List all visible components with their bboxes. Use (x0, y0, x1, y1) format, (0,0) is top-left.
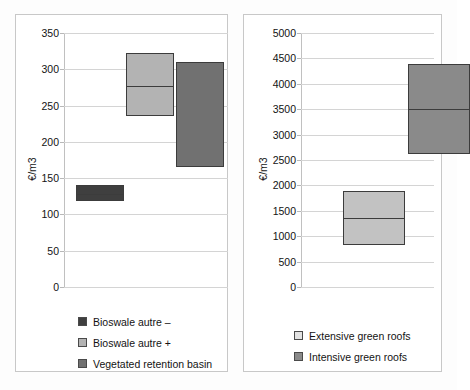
y-tick-label: 200 (41, 137, 59, 148)
y-tick-label: 3500 (273, 104, 296, 115)
legend-right: Extensive green roofsIntensive green roo… (244, 325, 441, 367)
gridline (301, 262, 434, 263)
legend-left: Bioswale autre –Bioswale autre +Vegetate… (16, 311, 227, 374)
plot-area-right: 0500100015002000250030003500400045005000 (301, 33, 434, 287)
y-tick-mark (297, 135, 301, 136)
legend-label: Vegetated retention basin (93, 358, 212, 370)
legend-label: Extensive green roofs (309, 330, 411, 342)
y-tick-label: 5000 (273, 28, 296, 39)
y-tick-label: 350 (41, 28, 59, 39)
legend-swatch-icon (78, 338, 87, 347)
y-tick-mark (297, 262, 301, 263)
y-tick-mark (297, 109, 301, 110)
y-tick-mark (60, 69, 64, 70)
data-box (343, 191, 405, 245)
y-tick-mark (297, 211, 301, 212)
gridline (301, 58, 434, 59)
gridline (64, 214, 228, 215)
y-tick-label: 2000 (273, 180, 296, 191)
legend-item[interactable]: Bioswale autre – (16, 311, 227, 332)
y-tick-mark (60, 142, 64, 143)
gridline (64, 33, 228, 34)
y-tick-label: 0 (53, 282, 59, 293)
y-tick-mark (60, 287, 64, 288)
legend-label: Bioswale autre + (93, 337, 171, 349)
y-tick-mark (297, 236, 301, 237)
y-tick-label: 3000 (273, 129, 296, 140)
y-tick-label: 150 (41, 173, 59, 184)
median-line (344, 218, 404, 219)
plot-area-left: 050100150200250300350 (64, 33, 228, 287)
y-axis-line-left (64, 33, 65, 287)
gridline (301, 160, 434, 161)
gridline (301, 33, 434, 34)
y-tick-mark (297, 185, 301, 186)
legend-swatch-icon (294, 352, 303, 361)
legend-label: Bioswale autre – (93, 316, 171, 328)
legend-swatch-icon (78, 359, 87, 368)
y-tick-mark (60, 251, 64, 252)
chart-panel-right: €/m3 05001000150020002500300035004000450… (243, 14, 442, 372)
y-tick-mark (60, 33, 64, 34)
y-tick-label: 250 (41, 100, 59, 111)
y-tick-label: 300 (41, 64, 59, 75)
y-tick-label: 100 (41, 209, 59, 220)
y-tick-label: 0 (290, 282, 296, 293)
median-line (77, 194, 123, 195)
legend-swatch-icon (78, 317, 87, 326)
y-tick-label: 50 (47, 245, 59, 256)
y-tick-mark (60, 178, 64, 179)
legend-item[interactable]: Bioswale autre + (16, 332, 227, 353)
y-tick-mark (297, 33, 301, 34)
legend-item[interactable]: Intensive green roofs (244, 346, 441, 367)
y-tick-mark (297, 84, 301, 85)
gridline (64, 178, 228, 179)
data-box (408, 64, 470, 154)
legend-item[interactable]: Extensive green roofs (244, 325, 441, 346)
y-tick-mark (60, 214, 64, 215)
median-line (127, 86, 173, 87)
y-tick-label: 1500 (273, 206, 296, 217)
y-tick-label: 4000 (273, 79, 296, 90)
y-tick-mark (297, 160, 301, 161)
legend-swatch-icon (294, 331, 303, 340)
legend-label: Intensive green roofs (309, 351, 407, 363)
y-tick-label: 2500 (273, 155, 296, 166)
data-box (126, 53, 174, 115)
y-axis-title-left: €/m3 (26, 144, 38, 194)
y-tick-mark (60, 106, 64, 107)
chart-panel-left: €/m3 050100150200250300350 Bioswale autr… (15, 14, 228, 372)
gridline (301, 287, 434, 288)
gridline (301, 185, 434, 186)
y-tick-mark (297, 58, 301, 59)
y-axis-title-right: €/m3 (257, 144, 269, 194)
legend-item[interactable]: Vegetated retention basin (16, 353, 227, 374)
gridline (64, 251, 228, 252)
data-box (176, 62, 224, 167)
gridline (64, 287, 228, 288)
data-box (76, 185, 124, 201)
y-tick-label: 500 (278, 256, 296, 267)
y-tick-mark (297, 287, 301, 288)
y-tick-label: 4500 (273, 53, 296, 64)
y-tick-label: 1000 (273, 231, 296, 242)
median-line (409, 109, 469, 110)
